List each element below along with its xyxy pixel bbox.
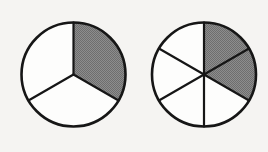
fraction-circles-figure — [0, 0, 268, 152]
fraction-circles-canvas — [0, 0, 268, 152]
circle-sixths — [152, 23, 256, 127]
circle-thirds — [22, 23, 126, 127]
